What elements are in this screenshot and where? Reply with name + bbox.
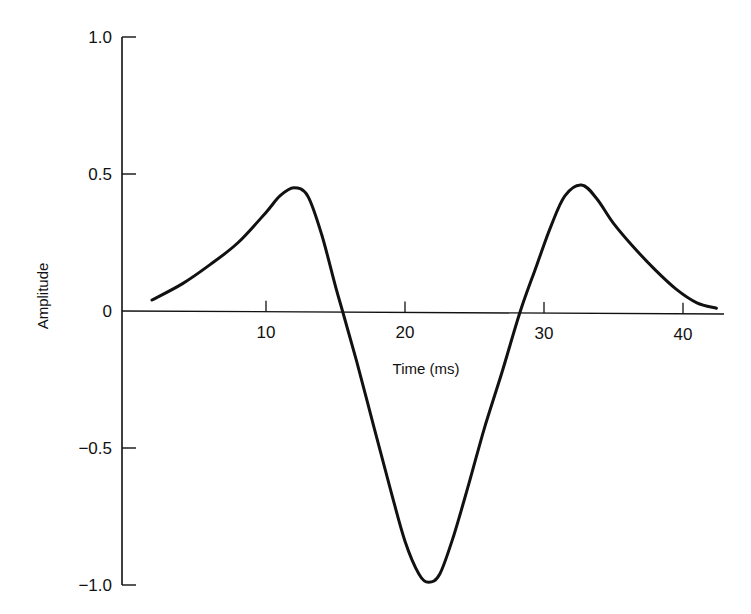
x-tick-label: 20	[396, 323, 415, 342]
y-tick-label: 0	[103, 302, 112, 321]
x-axis-line	[122, 311, 724, 314]
y-tick-label: 0.5	[88, 165, 112, 184]
x-axis-title: Time (ms)	[393, 360, 460, 377]
y-tick-label: −0.5	[78, 439, 112, 458]
waveform-line	[152, 185, 716, 582]
chart: 1.00.50−0.5−1.0 10203040 Time (ms) Ampli…	[0, 0, 751, 614]
y-axis-title: Amplitude	[34, 263, 51, 330]
series-layer	[152, 185, 716, 582]
x-tick-label: 40	[674, 325, 693, 344]
y-tick-label: 1.0	[88, 28, 112, 47]
x-tick-label: 10	[257, 323, 276, 342]
y-tick-label: −1.0	[78, 576, 112, 595]
x-tick-label: 30	[535, 324, 554, 343]
x-axis: 10203040	[122, 301, 724, 344]
